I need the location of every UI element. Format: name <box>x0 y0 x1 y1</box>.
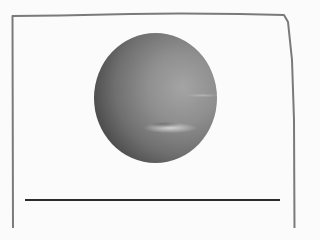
planet-image <box>94 33 217 163</box>
horizontal-rule <box>25 199 280 201</box>
